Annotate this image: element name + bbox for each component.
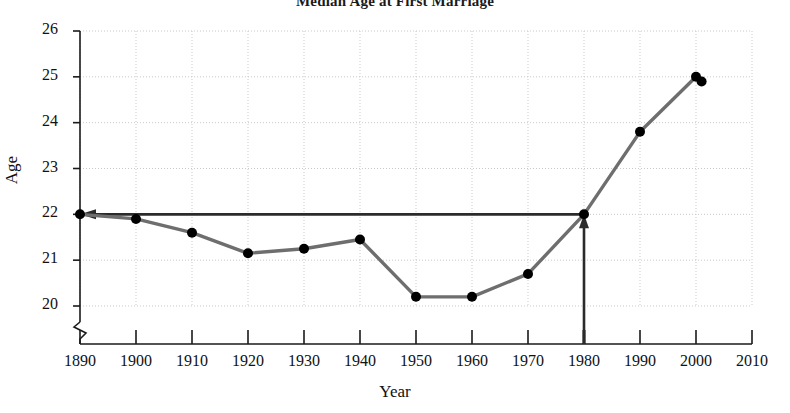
x-tick-label-1940: 1940: [332, 352, 388, 370]
annotation-arrows: [80, 209, 589, 344]
data-series-line: [80, 77, 702, 297]
x-tick-label-2000: 2000: [668, 352, 724, 370]
y-tick-label-24: 24: [24, 112, 58, 130]
y-tick-label-22: 22: [24, 203, 58, 221]
x-tick-label-1890: 1890: [52, 352, 108, 370]
x-tick-label-1920: 1920: [220, 352, 276, 370]
x-tick-label-1900: 1900: [108, 352, 164, 370]
x-tick-label-1930: 1930: [276, 352, 332, 370]
x-tick-label-1910: 1910: [164, 352, 220, 370]
y-tick-label-25: 25: [24, 66, 58, 84]
x-tick-label-1980: 1980: [556, 352, 612, 370]
x-tick-label-1960: 1960: [444, 352, 500, 370]
y-tick-label-26: 26: [24, 20, 58, 38]
y-tick-label-20: 20: [24, 295, 58, 313]
x-tick-label-1970: 1970: [500, 352, 556, 370]
x-axis-title: Year: [0, 382, 790, 402]
y-axis-title: Age: [2, 140, 22, 200]
chart-container: Median Age at First Marriage Age Year 26…: [0, 0, 790, 413]
chart-title: Median Age at First Marriage: [0, 0, 790, 10]
x-tick-label-2010: 2010: [724, 352, 780, 370]
grid-lines: [80, 31, 752, 306]
x-tick-label-1950: 1950: [388, 352, 444, 370]
data-point-markers: [75, 72, 707, 302]
y-tick-label-21: 21: [24, 249, 58, 267]
y-tick-label-23: 23: [24, 158, 58, 176]
x-tick-label-1990: 1990: [612, 352, 668, 370]
